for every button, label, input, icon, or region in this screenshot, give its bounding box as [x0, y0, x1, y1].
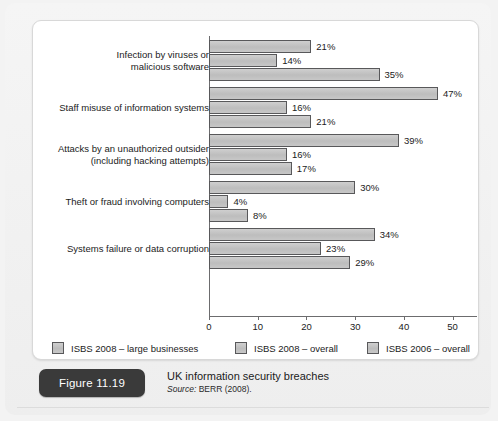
legend-label: ISBS 2006 – overall — [386, 343, 470, 354]
bar-value-label: 21% — [316, 115, 335, 128]
bar-value-label: 30% — [360, 181, 379, 194]
x-axis-tick — [209, 316, 210, 320]
legend-label: ISBS 2008 – overall — [254, 343, 338, 354]
bar — [209, 209, 248, 222]
category-label: Systems failure or data corruption — [32, 243, 209, 255]
bar — [209, 148, 287, 161]
chart-legend: ISBS 2008 – large businessesISBS 2008 – … — [32, 339, 477, 359]
bar-value-label: 4% — [233, 195, 247, 208]
legend-item[interactable]: ISBS 2008 – overall — [235, 342, 338, 354]
bar — [209, 68, 380, 81]
x-axis-tick-label: 40 — [399, 321, 410, 332]
bar-value-label: 8% — [253, 209, 267, 222]
bar-value-label: 14% — [282, 54, 301, 67]
category-label: Attacks by an unauthorized outsider (inc… — [32, 143, 209, 166]
x-axis-tick — [306, 316, 307, 320]
bar — [209, 242, 321, 255]
x-axis-tick-label: 20 — [301, 321, 312, 332]
x-axis-tick — [355, 316, 356, 320]
bar — [209, 40, 311, 53]
bar — [209, 162, 292, 175]
chart-card: Infection by viruses or malicious softwa… — [32, 20, 479, 360]
category-label: Theft or fraud involving computers — [32, 196, 209, 208]
figure-source-text: BERR (2008). — [199, 384, 252, 394]
bar-value-label: 39% — [404, 134, 423, 147]
figure-panel: Infection by viruses or malicious softwa… — [5, 3, 491, 415]
x-axis-line — [209, 316, 477, 317]
bar-value-label: 35% — [385, 68, 404, 81]
bar — [209, 54, 277, 67]
bar-value-label: 34% — [380, 228, 399, 241]
legend-swatch-icon — [367, 342, 379, 354]
figure-title: UK information security breaches — [167, 369, 329, 383]
figure-number-label: Figure 11.19 — [59, 377, 125, 389]
x-axis-tick-label: 50 — [447, 321, 458, 332]
bar-value-label: 29% — [355, 256, 374, 269]
x-axis-tick — [404, 316, 405, 320]
figure-caption-row: Figure 11.19 UK information security bre… — [32, 366, 477, 400]
bar-value-label: 17% — [297, 162, 316, 175]
bar-chart-plot: Infection by viruses or malicious softwa… — [33, 21, 478, 359]
x-axis-tick-label: 30 — [350, 321, 361, 332]
bar — [209, 101, 287, 114]
bar — [209, 87, 438, 100]
bar — [209, 181, 355, 194]
bar-value-label: 16% — [292, 101, 311, 114]
legend-item[interactable]: ISBS 2006 – overall — [367, 342, 470, 354]
legend-swatch-icon — [52, 342, 64, 354]
bar — [209, 115, 311, 128]
x-axis-tick-label: 0 — [206, 321, 211, 332]
x-axis-tick — [453, 316, 454, 320]
bar — [209, 134, 399, 147]
bar-value-label: 23% — [326, 242, 345, 255]
x-axis-tick-label: 10 — [252, 321, 263, 332]
legend-swatch-icon — [235, 342, 247, 354]
category-label: Staff misuse of information systems — [32, 102, 209, 114]
bar-value-label: 21% — [316, 40, 335, 53]
bar — [209, 228, 375, 241]
bar-value-label: 47% — [443, 87, 462, 100]
x-axis-tick — [258, 316, 259, 320]
figure-caption: UK information security breaches Source:… — [167, 369, 329, 395]
bar-value-label: 16% — [292, 148, 311, 161]
legend-label: ISBS 2008 – large businesses — [71, 343, 198, 354]
legend-item[interactable]: ISBS 2008 – large businesses — [52, 342, 198, 354]
bar — [209, 195, 228, 208]
page-rule — [17, 407, 489, 408]
bar — [209, 256, 350, 269]
figure-source-label: Source: — [167, 384, 196, 394]
category-label: Infection by viruses or malicious softwa… — [32, 49, 209, 72]
figure-number-badge: Figure 11.19 — [39, 369, 145, 397]
figure-source: Source: BERR (2008). — [167, 383, 329, 395]
